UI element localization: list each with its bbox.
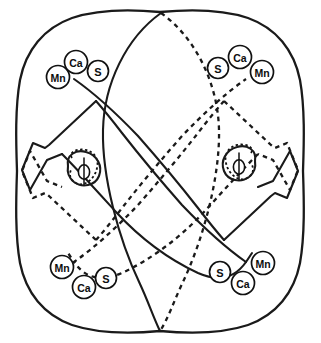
ion-marker-label: Ca bbox=[233, 52, 247, 64]
ion-marker-s[interactable]: S bbox=[88, 61, 109, 82]
ion-marker-mn[interactable]: Mn bbox=[251, 61, 274, 84]
ion-marker-label: Ca bbox=[69, 57, 83, 69]
ion-marker-label: Ca bbox=[236, 278, 250, 290]
ion-marker-ca[interactable]: Ca bbox=[73, 276, 96, 299]
ion-cluster-top-right: S Ca Mn bbox=[208, 46, 274, 84]
phi-markers-group bbox=[68, 144, 256, 185]
outer-boundary-group bbox=[16, 10, 304, 332]
ion-marker-label: S bbox=[102, 273, 109, 285]
ion-marker-s[interactable]: S bbox=[210, 262, 231, 283]
schematic-diagram: Mn Ca S S Ca Mn bbox=[0, 0, 321, 343]
dashed-band-upper-right-outer bbox=[224, 101, 298, 190]
ion-marker-ca[interactable]: Ca bbox=[65, 51, 88, 74]
ion-marker-label: Mn bbox=[255, 258, 270, 270]
solid-band-sweep-main bbox=[96, 101, 252, 262]
ion-marker-mn[interactable]: Mn bbox=[252, 252, 275, 275]
ion-marker-label: S bbox=[214, 63, 221, 75]
ion-marker-label: Ca bbox=[77, 282, 91, 294]
ion-marker-label: Mn bbox=[254, 67, 269, 79]
ion-cluster-bottom-left: Mn Ca S bbox=[51, 256, 117, 299]
ion-marker-label: Mn bbox=[54, 262, 69, 274]
figure-container: Mn Ca S S Ca Mn bbox=[0, 0, 321, 343]
ion-marker-ca[interactable]: Ca bbox=[229, 46, 252, 69]
ion-marker-label: Mn bbox=[50, 72, 65, 84]
solid-band-group bbox=[22, 79, 298, 278]
ion-marker-s[interactable]: S bbox=[208, 58, 229, 79]
phi-marker-left bbox=[68, 149, 101, 185]
outer-boundary-path bbox=[16, 10, 304, 332]
ion-marker-label: S bbox=[216, 267, 223, 279]
inner-lobes-group bbox=[103, 13, 219, 331]
ion-marker-ca[interactable]: Ca bbox=[232, 272, 255, 295]
ion-cluster-top-left: Mn Ca S bbox=[47, 51, 109, 89]
ion-marker-mn[interactable]: Mn bbox=[51, 256, 74, 279]
ion-marker-s[interactable]: S bbox=[96, 268, 117, 289]
ion-marker-label: S bbox=[94, 66, 101, 78]
